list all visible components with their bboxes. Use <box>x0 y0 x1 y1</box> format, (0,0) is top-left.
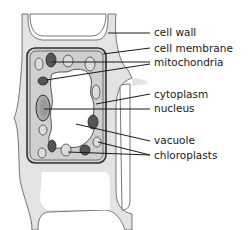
label-chloroplasts: chloroplasts <box>154 149 217 161</box>
label-cell-membrane: cell membrane <box>154 42 233 54</box>
label-cytoplasm: cytoplasm <box>154 88 208 100</box>
plant-cell-diagram: cell wall cell membrane mitochondria cyt… <box>0 0 248 230</box>
label-vacuole: vacuole <box>154 134 195 146</box>
label-mitochondria: mitochondria <box>154 56 224 68</box>
cell-illustration: cell wall cell membrane mitochondria cyt… <box>0 0 248 230</box>
label-cell-wall: cell wall <box>154 26 196 38</box>
label-nucleus: nucleus <box>154 102 195 114</box>
